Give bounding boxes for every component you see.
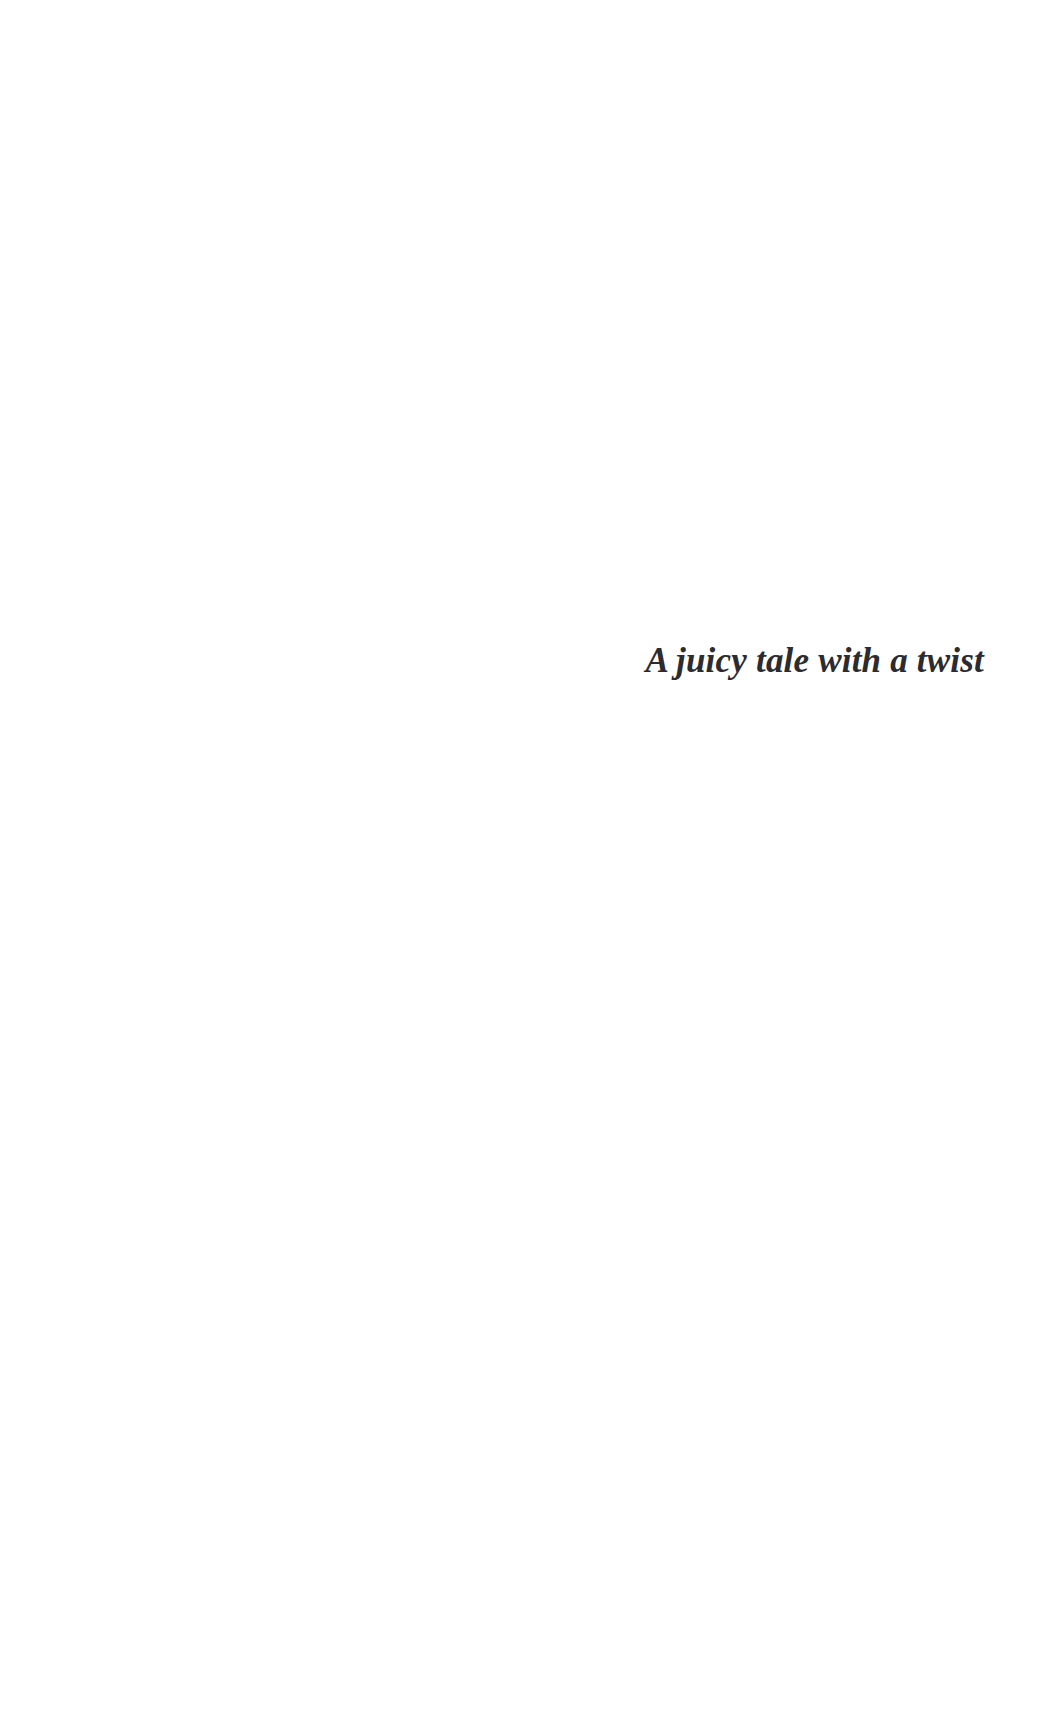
- document-page: A juicy tale with a twist: [0, 0, 1059, 1730]
- tagline-text: A juicy tale with a twist: [0, 643, 984, 678]
